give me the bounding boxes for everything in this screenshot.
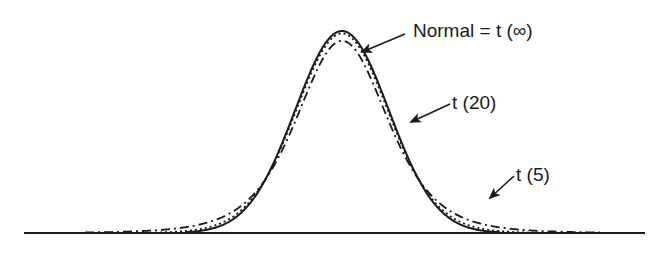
density-chart [0,0,664,254]
t20-curve [60,34,620,233]
normal-curve [185,31,500,232]
arrow-t5 [490,176,514,198]
normal-label: Normal = t (∞) [413,20,533,42]
arrow-t20 [411,104,450,122]
t5-curve [85,41,600,233]
arrow-normal [362,34,405,52]
t5-label: t (5) [516,164,550,186]
t20-label: t (20) [452,92,496,114]
